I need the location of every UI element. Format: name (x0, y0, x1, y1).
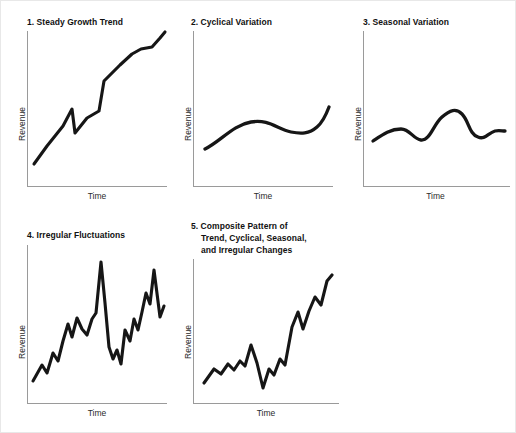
panel-steady-growth-trend: 1. Steady Growth Trend Revenue Time (1, 1, 177, 211)
figure-container: 1. Steady Growth Trend Revenue Time 2. C… (0, 0, 516, 433)
panel-5-plot (177, 211, 357, 426)
panel-3-axes (364, 31, 511, 187)
panel-1-axes (28, 31, 168, 187)
panel-1-x-axis-label: Time (27, 191, 167, 201)
panel-cyclical-variation: 2. Cyclical Variation Revenue Time (177, 1, 342, 211)
panel-1-series-line (34, 32, 165, 164)
panel-1-plot (1, 1, 177, 201)
panel-5-x-axis-label: Time (193, 408, 339, 418)
panel-4-axes (28, 245, 168, 404)
panel-2-x-axis-label: Time (193, 191, 333, 201)
panel-2-series-line (205, 107, 329, 149)
panel-irregular-fluctuations: 4. Irregular Fluctuations Revenue Time (1, 217, 177, 433)
panel-3-plot (342, 1, 516, 201)
panel-4-series-line (33, 262, 164, 381)
panel-3-x-axis-label: Time (363, 191, 508, 201)
panel-3-series-line (373, 110, 505, 141)
panel-composite-pattern: 5. Composite Pattern of Trend, Cyclical,… (177, 211, 357, 433)
panel-2-plot (177, 1, 342, 201)
panel-4-plot (1, 217, 177, 427)
panel-5-series-line (204, 275, 332, 388)
panel-seasonal-variation: 3. Seasonal Variation Revenue Time (342, 1, 516, 211)
panel-2-axes (194, 31, 334, 187)
panel-4-x-axis-label: Time (27, 408, 167, 418)
